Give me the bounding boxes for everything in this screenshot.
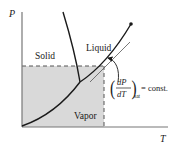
vapor-label: Vapor bbox=[74, 111, 98, 121]
denominator: dT bbox=[117, 89, 127, 99]
x-axis-label: T bbox=[160, 133, 167, 144]
phase-diagram: P T Solid Liquid Vapor ( dP dT ) sat = c… bbox=[0, 0, 182, 148]
left-paren: ( bbox=[110, 75, 115, 100]
suffix: = const. bbox=[141, 83, 168, 93]
critical-point bbox=[129, 22, 133, 26]
solid-label: Solid bbox=[35, 51, 55, 61]
numerator: dP bbox=[117, 77, 126, 87]
slope-annotation: ( dP dT ) sat = const. bbox=[110, 75, 168, 100]
y-axis-label: P bbox=[8, 8, 15, 19]
subscript: sat bbox=[134, 93, 141, 99]
liquid-label: Liquid bbox=[86, 43, 112, 53]
